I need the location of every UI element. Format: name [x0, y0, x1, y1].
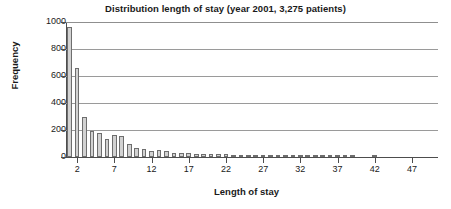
bar — [112, 135, 117, 157]
gridline-800 — [66, 49, 438, 50]
x-tick-label-47: 47 — [397, 164, 427, 174]
bar — [157, 150, 162, 157]
bar — [134, 148, 139, 157]
y-axis-ticks: 10008006004002000 — [0, 0, 66, 209]
chart-title: Distribution length of stay (year 2001, … — [0, 3, 451, 14]
bar — [119, 136, 124, 157]
bar — [142, 149, 147, 157]
x-tick-label-27: 27 — [248, 164, 278, 174]
bar — [97, 133, 102, 157]
x-tick-label-7: 7 — [99, 164, 129, 174]
plot-area — [66, 22, 438, 157]
x-tick-label-2: 2 — [62, 164, 92, 174]
x-tick-mark-27 — [263, 158, 264, 163]
bar — [105, 139, 110, 157]
chart-figure: Distribution length of stay (year 2001, … — [0, 0, 451, 209]
x-tick-label-32: 32 — [285, 164, 315, 174]
bar — [67, 27, 72, 157]
bar — [90, 131, 95, 157]
x-tick-label-42: 42 — [360, 164, 390, 174]
x-tick-mark-12 — [152, 158, 153, 163]
x-tick-label-12: 12 — [137, 164, 167, 174]
x-tick-mark-2 — [77, 158, 78, 163]
x-tick-mark-37 — [338, 158, 339, 163]
x-axis-ticks: 271217222732374247 — [66, 157, 438, 187]
x-tick-label-37: 37 — [323, 164, 353, 174]
gridline-1000 — [66, 22, 438, 23]
x-tick-label-17: 17 — [174, 164, 204, 174]
x-tick-label-22: 22 — [211, 164, 241, 174]
x-tick-mark-7 — [114, 158, 115, 163]
bar — [82, 117, 87, 158]
x-tick-mark-32 — [300, 158, 301, 163]
bar — [127, 144, 132, 158]
x-tick-mark-42 — [375, 158, 376, 163]
x-axis-title: Length of stay — [55, 186, 438, 197]
gridline-600 — [66, 76, 438, 77]
x-tick-mark-17 — [189, 158, 190, 163]
x-tick-mark-47 — [412, 158, 413, 163]
bar — [75, 68, 80, 157]
gridline-200 — [66, 130, 438, 131]
x-tick-mark-22 — [226, 158, 227, 163]
gridline-400 — [66, 103, 438, 104]
